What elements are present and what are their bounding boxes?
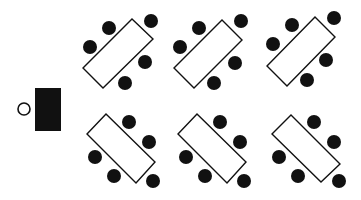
teacher-seat [18,103,30,115]
classroom-seating-diagram [0,0,361,200]
student-chair [285,18,299,32]
student-chair [102,21,116,35]
student-chair [327,135,341,149]
student-table [272,115,340,182]
student-table [174,20,242,88]
student-chair [307,115,321,129]
student-chair [300,73,314,87]
table-group-top-left [83,14,158,90]
student-chair [192,21,206,35]
student-chair [319,53,333,67]
student-table [87,114,155,183]
table-group-bottom-middle [178,114,251,188]
student-table [83,19,153,88]
student-chair [207,76,221,90]
student-chair [138,55,152,69]
student-table-groups [83,11,346,188]
table-group-top-right [266,11,341,87]
student-chair [173,40,187,54]
student-chair [213,115,227,129]
table-group-top-middle [173,14,248,90]
student-chair [266,37,280,51]
table-group-bottom-left [87,114,160,188]
student-chair [291,169,305,183]
student-chair [122,115,136,129]
student-table [267,17,335,86]
teacher-desk [35,88,61,131]
student-chair [144,14,158,28]
student-table [178,114,246,183]
student-chair [233,135,247,149]
student-chair [237,174,251,188]
student-chair [142,135,156,149]
student-chair [83,40,97,54]
student-chair [327,11,341,25]
student-chair [88,150,102,164]
teacher-area [18,88,61,131]
table-group-bottom-right [272,115,346,188]
student-chair [107,169,121,183]
student-chair [228,56,242,70]
student-chair [272,150,286,164]
student-chair [332,174,346,188]
student-chair [234,14,248,28]
student-chair [146,174,160,188]
student-chair [198,169,212,183]
student-chair [179,150,193,164]
student-chair [118,76,132,90]
